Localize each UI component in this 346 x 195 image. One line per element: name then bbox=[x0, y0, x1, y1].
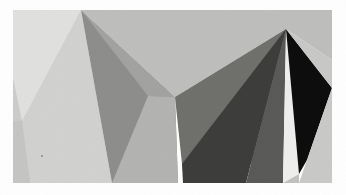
low-poly-illustration bbox=[0, 0, 346, 195]
image-canvas bbox=[0, 0, 346, 195]
dust-speck bbox=[41, 155, 43, 157]
facet-group bbox=[13, 10, 332, 183]
